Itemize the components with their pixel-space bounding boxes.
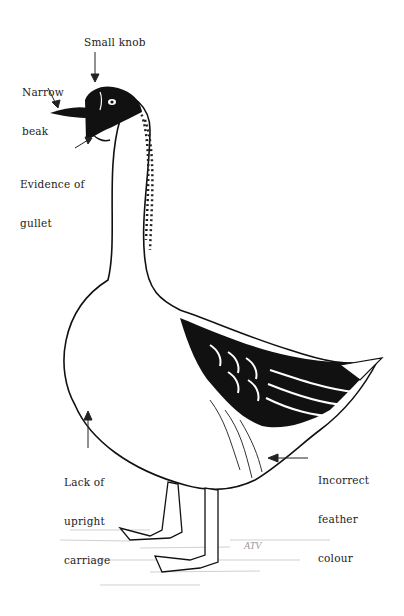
goose-body bbox=[64, 95, 378, 490]
label-line: gullet bbox=[20, 217, 85, 230]
label-line: Narrow bbox=[22, 86, 64, 99]
label-narrow-beak: Narrow beak bbox=[22, 60, 64, 164]
artist-signature: ATV bbox=[244, 540, 261, 551]
label-lack-of-upright-carriage: Lack of upright carriage bbox=[64, 450, 110, 593]
label-line: Incorrect bbox=[318, 474, 369, 487]
label-line: carriage bbox=[64, 554, 110, 567]
goose-legs bbox=[120, 482, 218, 572]
label-line: feather bbox=[318, 513, 369, 526]
label-line: upright bbox=[64, 515, 110, 528]
label-line: Evidence of bbox=[20, 178, 85, 191]
label-evidence-of-gullet: Evidence of gullet bbox=[20, 152, 85, 256]
label-line: colour bbox=[318, 552, 369, 565]
label-small-knob: Small knob bbox=[84, 36, 146, 49]
goose-diagram: Small knob Narrow beak Evidence of gulle… bbox=[0, 0, 404, 616]
label-incorrect-feather-colour: Incorrect feather colour bbox=[318, 448, 369, 591]
label-line: Lack of bbox=[64, 476, 110, 489]
label-line: beak bbox=[22, 125, 64, 138]
